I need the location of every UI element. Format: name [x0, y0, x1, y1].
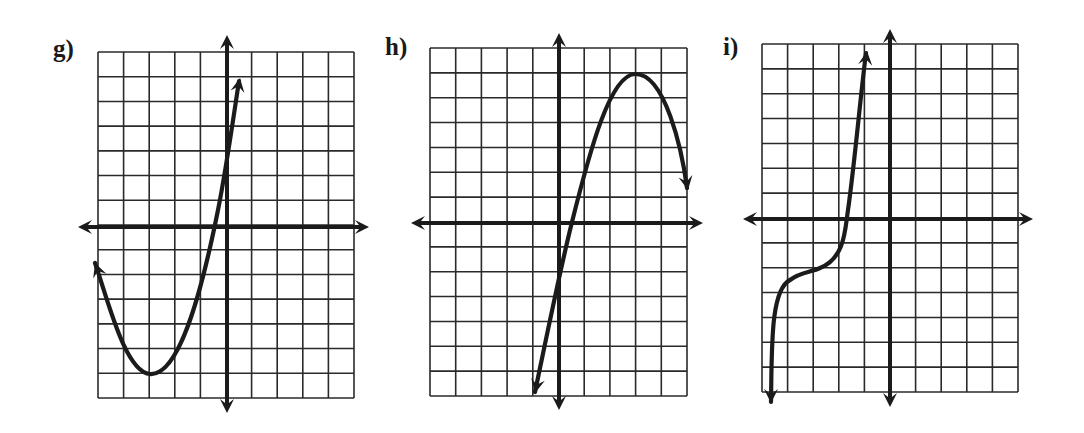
- graph-i: [743, 29, 1033, 407]
- function-curve: [764, 51, 872, 403]
- axes: [78, 35, 369, 413]
- graph-panels: [0, 0, 1084, 433]
- graph-h: [411, 33, 703, 410]
- axes: [743, 29, 1033, 407]
- graph-g: [78, 35, 369, 413]
